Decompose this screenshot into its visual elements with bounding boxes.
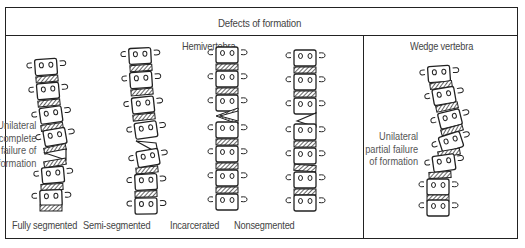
spine-semi-segmented [121,47,169,214]
spine-fully-segmented [26,58,76,223]
spine-illustrations [0,0,525,248]
spine-wedge-vertebra [419,65,472,216]
spine-nonsegmented [286,50,325,211]
spine-incarcerated [208,47,247,210]
